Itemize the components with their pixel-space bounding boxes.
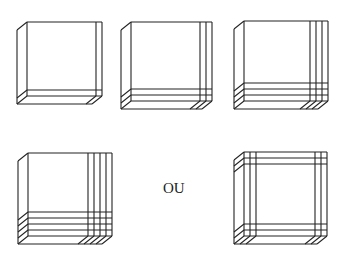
cut-right-depth: [96, 236, 106, 244]
cube-diagram: [0, 0, 346, 258]
box-4: [18, 153, 112, 244]
edge-depth-bottom-right: [102, 236, 112, 244]
box-3: [234, 21, 328, 109]
edge-depth-top-left: [121, 22, 131, 30]
edge-depth-top-left: [234, 21, 244, 29]
edge-depth-top-left: [18, 153, 28, 161]
box-5: [234, 152, 327, 244]
cut-right-depth: [300, 101, 310, 109]
cut-right-depth: [84, 236, 94, 244]
cut-right-depth: [311, 236, 321, 244]
cut-right-depth: [305, 236, 315, 244]
cut-right-depth: [90, 236, 100, 244]
cut-right-depth: [312, 101, 322, 109]
cut-left-depth: [240, 236, 250, 244]
edge-depth-bottom-right: [92, 96, 102, 104]
cut-right-depth: [190, 101, 200, 109]
cut-right-depth: [86, 96, 96, 104]
cut-right-depth: [196, 101, 206, 109]
box-1: [17, 22, 102, 104]
or-label: OU: [163, 180, 185, 197]
box-2: [121, 22, 212, 109]
edge-depth-bottom-right: [202, 101, 212, 109]
cut-right-depth: [306, 101, 316, 109]
cut-right-depth: [78, 236, 88, 244]
edge-depth-top-left: [17, 22, 27, 30]
edge-depth-bottom-right: [317, 236, 327, 244]
cut-left-depth: [246, 236, 256, 244]
edge-depth-bottom-right: [318, 101, 328, 109]
